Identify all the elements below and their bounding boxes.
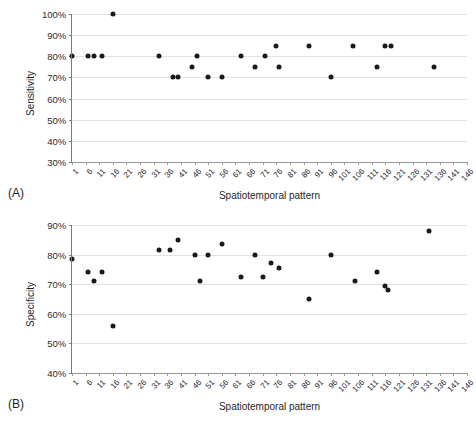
data-point	[86, 54, 91, 59]
x-tick-mark	[208, 162, 209, 165]
gridline	[72, 35, 467, 36]
data-point	[91, 54, 96, 59]
y-axis-tick-label: 80%	[26, 51, 66, 62]
data-point	[195, 54, 200, 59]
gridline	[72, 343, 467, 344]
x-tick-mark	[467, 373, 468, 376]
gridline	[72, 14, 467, 15]
x-tick-mark	[358, 373, 359, 376]
x-tick-mark	[263, 373, 264, 376]
y-axis-title: Sensitivity	[25, 64, 36, 124]
x-tick-mark	[399, 162, 400, 165]
x-tick-mark	[399, 373, 400, 376]
x-tick-mark	[413, 162, 414, 165]
data-point	[99, 54, 104, 59]
data-point	[375, 270, 380, 275]
y-axis-tick-label: 90%	[26, 30, 66, 41]
x-tick-mark	[86, 373, 87, 376]
y-axis-tick-label: 40%	[26, 135, 66, 146]
data-point	[277, 265, 282, 270]
data-point	[328, 252, 333, 257]
data-point	[268, 261, 273, 266]
data-point	[252, 252, 257, 257]
panel-tag: (B)	[8, 397, 24, 411]
data-point	[274, 43, 279, 48]
x-tick-mark	[208, 373, 209, 376]
panel-b: 40%50%60%70%80%90%1611162126313641465156…	[0, 211, 476, 422]
data-point	[426, 228, 431, 233]
x-tick-mark	[86, 162, 87, 165]
y-axis-line	[71, 225, 72, 373]
data-point	[307, 43, 312, 48]
data-point	[170, 75, 175, 80]
plot-area	[72, 14, 467, 162]
plot-area	[72, 225, 467, 373]
data-point	[252, 64, 257, 69]
data-point	[383, 43, 388, 48]
x-tick-mark	[263, 162, 264, 165]
x-tick-mark	[317, 373, 318, 376]
x-tick-mark	[72, 373, 73, 376]
x-axis-title: Spatiotemporal pattern	[72, 401, 467, 412]
x-tick-mark	[290, 373, 291, 376]
x-tick-mark	[440, 373, 441, 376]
y-axis-tick-label: 50%	[26, 338, 66, 349]
x-tick-mark	[344, 373, 345, 376]
y-axis-title: Specificity	[25, 275, 36, 335]
gridline	[72, 225, 467, 226]
data-point	[206, 75, 211, 80]
x-tick-mark	[385, 373, 386, 376]
gridline	[72, 373, 467, 374]
y-axis-line	[71, 14, 72, 162]
x-tick-mark	[304, 373, 305, 376]
x-tick-mark	[140, 162, 141, 165]
gridline	[72, 99, 467, 100]
x-tick-mark	[372, 373, 373, 376]
x-tick-mark	[249, 373, 250, 376]
x-tick-mark	[372, 162, 373, 165]
gridline	[72, 314, 467, 315]
data-point	[388, 43, 393, 48]
data-point	[198, 279, 203, 284]
y-axis-tick-label: 30%	[26, 157, 66, 168]
data-point	[157, 248, 162, 253]
x-tick-mark	[181, 162, 182, 165]
panel-tag: (A)	[8, 186, 24, 200]
x-tick-mark	[426, 162, 427, 165]
data-point	[238, 274, 243, 279]
x-tick-mark	[331, 373, 332, 376]
y-axis-tick-label: 80%	[26, 249, 66, 260]
x-tick-mark	[195, 162, 196, 165]
panel-a: 30%40%50%60%70%80%90%100%161116212631364…	[0, 0, 476, 211]
x-tick-mark	[154, 373, 155, 376]
data-point	[238, 54, 243, 59]
data-point	[219, 242, 224, 247]
gridline	[72, 162, 467, 163]
gridline	[72, 284, 467, 285]
x-tick-mark	[331, 162, 332, 165]
x-tick-mark	[154, 162, 155, 165]
x-tick-mark	[344, 162, 345, 165]
x-tick-mark	[453, 162, 454, 165]
data-point	[86, 270, 91, 275]
x-tick-mark	[453, 373, 454, 376]
y-axis-tick-label: 90%	[26, 220, 66, 231]
data-point	[432, 64, 437, 69]
x-tick-mark	[235, 162, 236, 165]
data-point	[176, 237, 181, 242]
x-tick-mark	[195, 373, 196, 376]
data-point	[168, 248, 173, 253]
x-tick-mark	[126, 162, 127, 165]
data-point	[219, 75, 224, 80]
x-tick-mark	[290, 162, 291, 165]
scatter-figure: 30%40%50%60%70%80%90%100%161116212631364…	[0, 0, 476, 422]
x-tick-mark	[276, 162, 277, 165]
y-axis-tick-label: 100%	[26, 9, 66, 20]
gridline	[72, 141, 467, 142]
x-tick-mark	[440, 162, 441, 165]
x-tick-mark	[222, 373, 223, 376]
gridline	[72, 120, 467, 121]
x-axis-title: Spatiotemporal pattern	[72, 190, 467, 201]
x-tick-mark	[99, 373, 100, 376]
x-tick-mark	[317, 162, 318, 165]
